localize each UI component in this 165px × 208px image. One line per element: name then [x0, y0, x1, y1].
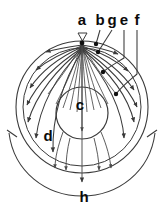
leader-dot-e	[101, 70, 105, 74]
apex-dot	[80, 41, 85, 46]
label-f: f	[135, 11, 141, 28]
label-h: h	[79, 188, 88, 205]
bracket-tick-left	[7, 130, 17, 137]
label-g: g	[107, 11, 116, 28]
lower-flow-line	[66, 138, 70, 170]
lower-fan-group	[55, 132, 111, 170]
leader-line-f	[116, 30, 137, 94]
diagram-svg: a b g e f c d h	[0, 0, 165, 208]
label-a: a	[78, 11, 87, 28]
label-c: c	[76, 96, 84, 113]
leader-dot-b	[94, 42, 98, 46]
leader-dot-f	[114, 92, 118, 96]
leader-dot-g	[96, 50, 100, 54]
lower-flow-line	[94, 138, 99, 170]
down-triangle-icon	[78, 33, 87, 41]
label-b: b	[95, 11, 104, 28]
label-e: e	[120, 11, 128, 28]
leader-line-group	[94, 30, 137, 96]
bracket-tick-right	[147, 130, 157, 137]
apex-marker-group	[78, 33, 87, 45]
leader-line-g	[98, 30, 112, 52]
figure-container: a b g e f c d h	[0, 0, 165, 208]
label-d: d	[43, 127, 52, 144]
